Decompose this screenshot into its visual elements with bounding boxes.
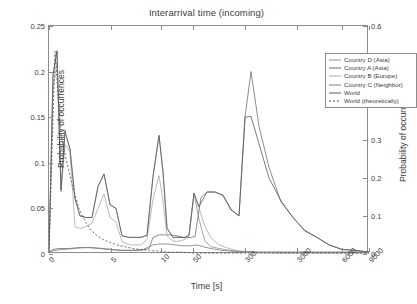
x-tick-top <box>245 26 246 30</box>
legend-item[interactable]: Country C (Neighbor) <box>328 81 414 89</box>
x-tick-label: 5 <box>109 255 118 264</box>
legend-swatch-icon <box>328 72 342 80</box>
y-axis-left-title: Probability of occurrences <box>56 29 66 209</box>
x-tick <box>49 248 50 252</box>
legend-label: Country B (Europe) <box>344 72 397 80</box>
x-tick-top <box>369 26 370 30</box>
plot-area: 00.050.10.150.20.25 00.10.20.30.40.50.6 … <box>48 25 368 253</box>
y-tick-label-left: 0.1 <box>11 159 45 168</box>
legend-label: Country D (Asia) <box>344 56 390 64</box>
legend[interactable]: Country D (Asia)Country A (Asia)Country … <box>325 53 417 108</box>
y-tick-label-left: 0.2 <box>11 68 45 77</box>
x-tick-top <box>193 26 194 30</box>
y-tick-right <box>363 178 367 179</box>
y-tick-label-left: 0 <box>11 250 45 259</box>
y-tick-right <box>363 254 367 255</box>
legend-item[interactable]: Country B (Europe) <box>328 72 414 80</box>
x-tick-top <box>161 26 162 30</box>
y-tick-label-right: 0.6 <box>371 22 393 31</box>
legend-item[interactable]: World <box>328 89 414 97</box>
y-tick-label-right: 0.3 <box>371 136 393 145</box>
legend-label: Country A (Asia) <box>344 64 389 72</box>
x-tick <box>342 248 343 252</box>
y-tick-left <box>49 208 53 209</box>
legend-swatch-icon <box>328 81 342 89</box>
x-tick <box>245 248 246 252</box>
y-tick-label-right: 0.2 <box>371 174 393 183</box>
series-line <box>49 62 369 253</box>
series-line <box>49 51 369 253</box>
legend-swatch-icon <box>328 97 342 105</box>
plot-lines <box>49 26 369 254</box>
y-tick-label-left: 0.25 <box>11 22 45 31</box>
legend-swatch-icon <box>328 64 342 72</box>
chart-title: Interarrival time (incoming) <box>0 7 413 18</box>
x-tick <box>193 248 194 252</box>
y-tick-label-left: 0.05 <box>11 204 45 213</box>
x-tick-top <box>49 26 50 30</box>
y-tick-right <box>363 216 367 217</box>
series-line <box>49 72 369 253</box>
legend-item[interactable]: Country D (Asia) <box>328 56 414 64</box>
legend-label: World <box>344 89 360 97</box>
x-tick-top <box>297 26 298 30</box>
y-tick-right <box>363 140 367 141</box>
legend-label: World (theoretically) <box>344 97 399 105</box>
x-tick <box>111 248 112 252</box>
y-tick-left <box>49 72 53 73</box>
x-tick <box>161 248 162 252</box>
series-line <box>49 52 369 254</box>
legend-swatch-icon <box>328 56 342 64</box>
y-tick-label-left: 0.15 <box>11 113 45 122</box>
x-tick-label: 0 <box>47 255 56 264</box>
y-tick-label-right: 0.1 <box>371 212 393 221</box>
x-axis-title: Time [s] <box>0 281 413 291</box>
series-line <box>49 52 369 254</box>
legend-label: Country C (Neighbor) <box>344 81 403 89</box>
x-tick <box>369 248 370 252</box>
legend-swatch-icon <box>328 89 342 97</box>
y-tick-left <box>49 163 53 164</box>
x-tick <box>297 248 298 252</box>
legend-item[interactable]: World (theoretically) <box>328 97 414 105</box>
legend-item[interactable]: Country A (Asia) <box>328 64 414 72</box>
y-tick-left <box>49 117 53 118</box>
x-tick-top <box>111 26 112 30</box>
x-tick-top <box>342 26 343 30</box>
y-tick-right <box>363 26 367 27</box>
